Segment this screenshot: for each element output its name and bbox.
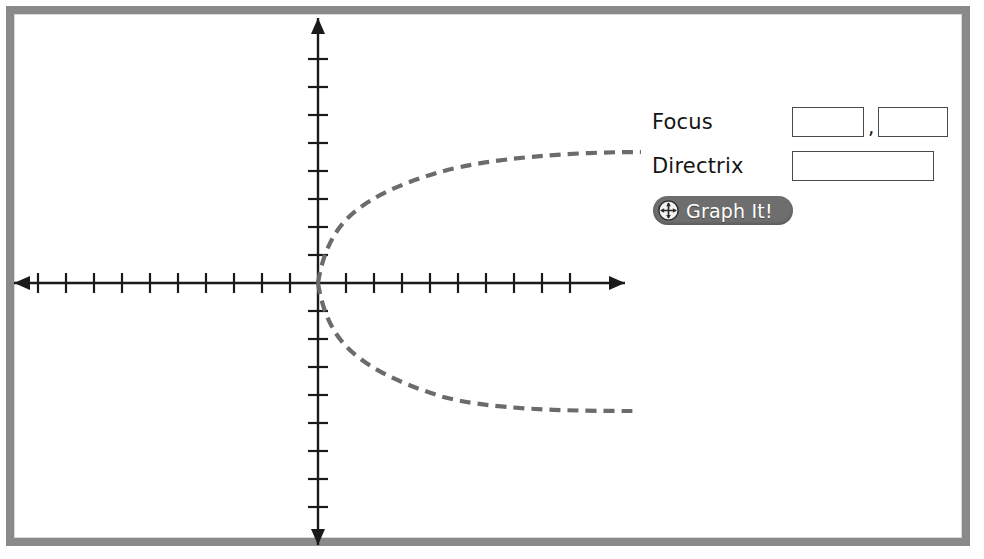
app-root: Focus , Directrix [0,0,984,559]
coordinate-plane-graph [0,0,650,559]
move-crosshair-icon [658,200,679,221]
parabola-upper-branch [318,152,641,283]
graph-it-button-label: Graph It! [686,200,773,222]
focus-label: Focus [652,110,792,134]
graph-it-button[interactable]: Graph It! [653,196,793,225]
parabola-curve [318,152,641,411]
directrix-label: Directrix [652,154,792,178]
graph-button-row: Graph It! [653,196,972,225]
focus-y-input[interactable] [878,107,948,137]
graph-panel [0,0,650,559]
focus-field-row: Focus , [652,100,972,144]
focus-x-input[interactable] [792,107,864,137]
directrix-field-row: Directrix [652,144,972,188]
focus-coordinate-separator: , [864,117,878,137]
directrix-input[interactable] [792,151,934,181]
parabola-lower-branch [318,283,633,411]
parabola-controls-panel: Focus , Directrix [652,100,972,225]
